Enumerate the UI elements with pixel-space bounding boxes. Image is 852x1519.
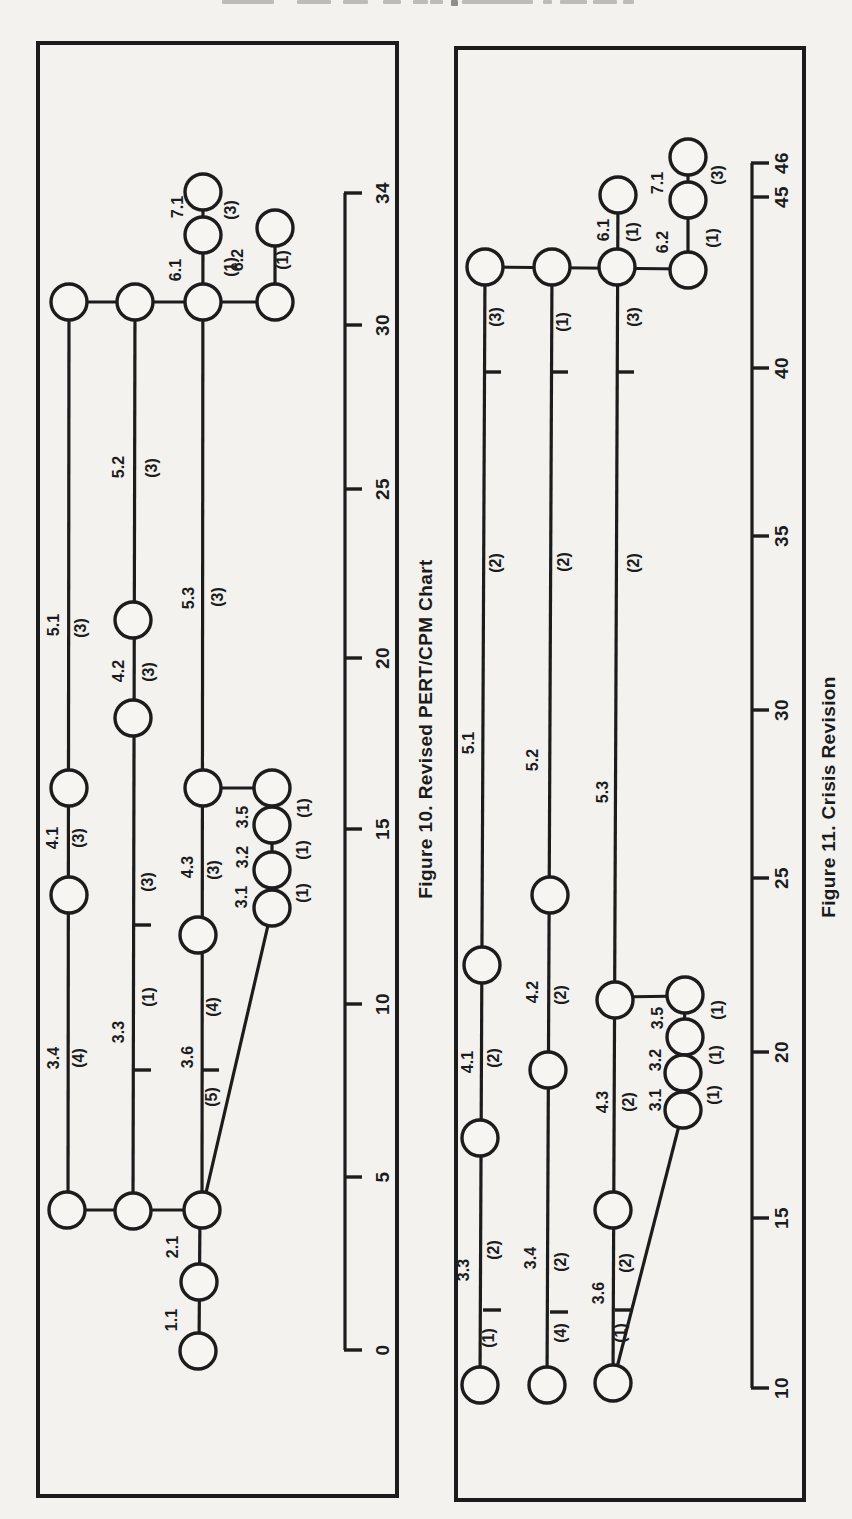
activity-label: 3.2 bbox=[234, 846, 251, 868]
event-node bbox=[670, 182, 706, 218]
axis-tick-label: 20 bbox=[372, 647, 393, 669]
event-node bbox=[532, 877, 568, 913]
activity-label: 3.1 bbox=[647, 1089, 664, 1111]
activity-label: 6.1 bbox=[167, 259, 184, 281]
activity-label: (2) bbox=[620, 1092, 637, 1112]
activity-label: 3.5 bbox=[649, 1007, 666, 1029]
event-node bbox=[254, 807, 290, 843]
activity-label: 3.1 bbox=[233, 886, 250, 908]
figure11-caption: Figure 11. Crisis Revision bbox=[818, 676, 840, 918]
axis-tick-label: 46 bbox=[771, 152, 792, 174]
activity-label: (3) bbox=[209, 587, 226, 607]
axis-tick-label: 0 bbox=[372, 1344, 393, 1355]
activity-label: (3) bbox=[222, 200, 239, 220]
activity-label: (3) bbox=[72, 618, 89, 638]
axis-tick-label: 10 bbox=[372, 993, 393, 1015]
activity-label: 4.1 bbox=[44, 827, 61, 849]
axis-tick-label: 45 bbox=[771, 186, 792, 208]
activity-label: 6.2 bbox=[229, 249, 246, 271]
event-node bbox=[462, 1367, 498, 1403]
event-node bbox=[599, 249, 635, 285]
activity-label: 3.4 bbox=[45, 1047, 62, 1069]
axis-tick-label: 30 bbox=[771, 699, 792, 721]
event-node bbox=[117, 284, 153, 320]
event-node bbox=[180, 1333, 216, 1369]
event-node bbox=[595, 1365, 631, 1401]
activity-label: 5.2 bbox=[524, 749, 541, 771]
scanned-page: 343025201510505.1(3)4.1(3)3.4(4)5.2(3)4.… bbox=[0, 0, 852, 1519]
activity-label: (1) bbox=[480, 1328, 497, 1348]
activity-label: 4.3 bbox=[179, 856, 196, 878]
event-node bbox=[51, 770, 87, 806]
activity-label: (2) bbox=[617, 1253, 634, 1273]
activity-label: 3.2 bbox=[647, 1049, 664, 1071]
axis-tick-label: 35 bbox=[771, 525, 792, 547]
activity-label: (1) bbox=[612, 1323, 629, 1343]
activity-label: (1) bbox=[295, 798, 312, 818]
activity-label: 4.2 bbox=[110, 660, 127, 682]
activity-label: (3) bbox=[625, 307, 642, 327]
activity-label: (2) bbox=[552, 1252, 569, 1272]
activity-label: (3) bbox=[487, 307, 504, 327]
event-node bbox=[180, 917, 216, 953]
axis-tick-label: 40 bbox=[771, 357, 792, 379]
event-node bbox=[464, 947, 500, 983]
activity-label: (2) bbox=[552, 985, 569, 1005]
activity-label: 2.1 bbox=[164, 1236, 181, 1258]
event-node bbox=[530, 1052, 566, 1088]
activity-label: (3) bbox=[143, 458, 160, 478]
activity-label: (1) bbox=[709, 1000, 726, 1020]
activity-label: (1) bbox=[294, 840, 311, 860]
activity-line bbox=[202, 192, 203, 1210]
activity-label: 3.6 bbox=[179, 1046, 196, 1068]
activity-line bbox=[133, 302, 135, 1211]
axis-tick-label: 15 bbox=[372, 818, 393, 840]
axis-tick-label: 25 bbox=[372, 478, 393, 500]
activity-label: (1) bbox=[705, 1085, 722, 1105]
activity-label: 4.3 bbox=[594, 1091, 611, 1113]
activity-label: (1) bbox=[624, 222, 641, 242]
event-node bbox=[115, 602, 151, 638]
activity-label: 5.3 bbox=[180, 587, 197, 609]
event-node bbox=[181, 1264, 217, 1300]
activity-label: 3.4 bbox=[522, 1247, 539, 1269]
activity-label: (1) bbox=[554, 312, 571, 332]
activity-label: (1) bbox=[140, 987, 157, 1007]
event-node bbox=[185, 284, 221, 320]
activity-label: 4.2 bbox=[524, 981, 541, 1003]
activity-label: (3) bbox=[205, 860, 222, 880]
event-node bbox=[667, 1019, 703, 1055]
activity-label: (2) bbox=[487, 553, 504, 573]
event-node bbox=[115, 700, 151, 736]
activity-label: 3.3 bbox=[455, 1259, 472, 1281]
axis-tick-label: 5 bbox=[372, 1171, 393, 1182]
axis-tick-label: 15 bbox=[771, 1207, 792, 1229]
activity-label: 5.3 bbox=[594, 781, 611, 803]
event-node bbox=[51, 877, 87, 913]
activity-label: 3.3 bbox=[110, 1021, 127, 1043]
activity-label: 5.1 bbox=[460, 732, 477, 754]
event-node bbox=[462, 1120, 498, 1156]
activity-label: (4) bbox=[552, 1323, 569, 1343]
activity-line bbox=[485, 267, 688, 269]
activity-label: 1.1 bbox=[163, 1309, 180, 1331]
activity-label: (2) bbox=[555, 552, 572, 572]
activity-label: 3.5 bbox=[234, 806, 251, 828]
event-node bbox=[467, 249, 503, 285]
event-node bbox=[257, 210, 293, 246]
activity-label: (1) bbox=[294, 883, 311, 903]
activity-label: 4.1 bbox=[459, 1051, 476, 1073]
axis-tick-label: 10 bbox=[771, 1377, 792, 1399]
event-node bbox=[665, 1055, 701, 1091]
event-node bbox=[670, 252, 706, 288]
event-node bbox=[600, 177, 636, 213]
activity-label: 7.1 bbox=[169, 196, 186, 218]
axis-tick-label: 34 bbox=[372, 182, 393, 204]
activity-label: (2) bbox=[485, 1240, 502, 1260]
figure10-caption: Figure 10. Revised PERT/CPM Chart bbox=[415, 559, 437, 898]
axis-tick-label: 20 bbox=[771, 1041, 792, 1063]
activity-label: 6.2 bbox=[654, 231, 671, 253]
event-node bbox=[665, 1092, 701, 1128]
activity-line bbox=[202, 908, 272, 1210]
activity-label: (4) bbox=[204, 997, 221, 1017]
